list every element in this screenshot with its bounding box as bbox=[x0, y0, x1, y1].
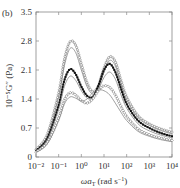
y-tick-label: 2.8 bbox=[21, 36, 33, 46]
y-tick-label: 0.7 bbox=[21, 123, 33, 133]
series-1 bbox=[35, 40, 173, 151]
x-axis-label: ωaT (rad s−1) bbox=[81, 176, 127, 187]
x-tick-label: 10⁰ bbox=[75, 161, 88, 171]
x-tick-label: 10⁻¹ bbox=[50, 161, 67, 171]
y-tick-label: 3.5 bbox=[21, 7, 33, 17]
x-tick-label: 10⁴ bbox=[166, 161, 178, 171]
y-axis: 00.71.42.12.83.5 bbox=[21, 7, 172, 162]
data-series bbox=[35, 40, 174, 154]
x-tick-label: 10² bbox=[121, 161, 133, 171]
x-tick-label: 10⁻² bbox=[28, 161, 45, 171]
y-axis-label: 10⁻⁵G″ (Pa) bbox=[4, 64, 14, 108]
x-tick-label: 10¹ bbox=[98, 161, 110, 171]
y-tick-label: 2.1 bbox=[21, 65, 32, 75]
panel-label: (b) bbox=[2, 8, 13, 18]
loss-modulus-chart: (b) 00.71.42.12.83.5 10⁻²10⁻¹10⁰10¹10²10… bbox=[0, 0, 180, 188]
y-tick-label: 1.4 bbox=[21, 94, 33, 104]
x-tick-label: 10³ bbox=[143, 161, 155, 171]
x-axis: 10⁻²10⁻¹10⁰10¹10²10³10⁴ bbox=[28, 12, 178, 171]
